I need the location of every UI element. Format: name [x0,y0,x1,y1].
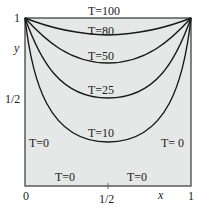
isotherm-label-50: T=50 [88,50,114,62]
x-tick-half-label: 1/2 [99,193,114,205]
isotherm-label-80: T=80 [88,25,114,37]
isotherm-label-10: T=10 [88,127,114,139]
boundary-label-left: T=0 [29,137,49,149]
x-axis-label: x [158,189,163,201]
y-tick-half: 1/2 [5,93,20,105]
boundary-label-bottom-right: T=0 [127,171,147,183]
x-tick-1: 1 [188,190,194,202]
boundary-label-top: T=100 [88,5,120,17]
isotherm-label-25: T=25 [88,84,114,96]
y-axis-label: y [14,42,19,54]
boundary-label-bottom-left: T=0 [55,171,75,183]
y-tick-1: 1 [14,12,20,24]
domain-square [25,18,191,186]
x-tick-0: 0 [23,190,29,202]
boundary-label-right: T= 0 [161,137,184,149]
